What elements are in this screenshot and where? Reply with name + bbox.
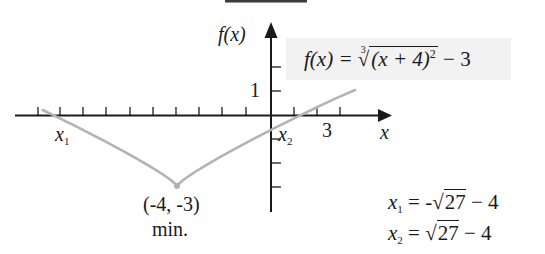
root-index: 3 [361,44,366,55]
sqrt-27: √27 [425,221,459,246]
solution-x2-radicand: 27 [437,220,459,245]
formula-radicand: (x + 4) [371,47,429,71]
x-ticks [38,107,340,115]
y-axis-arrow-icon [265,22,278,38]
solution-x1-tail: − 4 [466,190,499,214]
top-rule [225,0,307,3]
formula-lhs: f(x) = [304,47,358,71]
function-formula: f(x) = 3√(x + 4)2 − 3 [304,47,471,72]
y-axis-label: f(x) [218,24,246,44]
min-caption: min. [152,219,188,239]
minimum-point [174,183,180,189]
solution-x1-eq: = - [403,190,432,214]
solution-x2-var: x [388,221,397,245]
formula-exponent: 2 [430,47,436,61]
formula-tail: − 3 [438,47,471,71]
solution-x2-tail: − 4 [459,221,492,245]
cube-root: 3√(x + 4)2 [358,47,438,72]
sqrt-27: √27 [432,190,466,215]
min-point-label: (-4, -3) [143,194,200,214]
solution-x2-eq: = [403,221,425,245]
formula-radicand-wrap: (x + 4)2 [369,46,437,71]
function-curve [43,90,355,187]
solution-x1-radicand: 27 [444,189,466,214]
x-tick-label-3: 3 [322,120,332,140]
x1-root-label: x1 [55,124,69,147]
y-tick-label-1: 1 [250,80,260,100]
x1-sub: 1 [64,135,70,147]
x-axis-label: x [380,122,389,142]
x2-root-label: x2 [278,124,292,147]
solution-x2: x2 = √27 − 4 [388,221,492,246]
x1-var: x [55,123,64,145]
solution-x1-var: x [388,190,397,214]
solution-x1: x1 = -√27 − 4 [388,190,499,215]
x2-var: x [278,123,287,145]
x2-sub: 2 [287,135,293,147]
